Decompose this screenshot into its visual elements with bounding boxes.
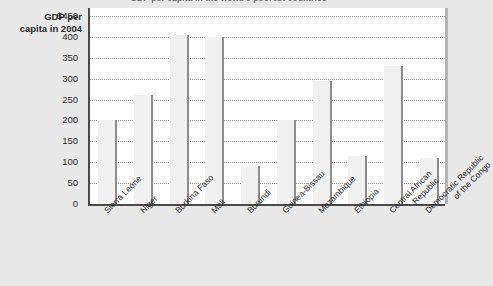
y-tick-label: 50: [8, 178, 78, 188]
y-tick-label: 0: [8, 199, 78, 209]
y-tick-label: 250: [8, 95, 78, 105]
x-axis-tick-labels: Sierra LeoneNigerBurkina FasoMaliBurundi…: [88, 208, 445, 286]
y-tick-label: 200: [8, 115, 78, 125]
bar: [170, 35, 189, 204]
bar: [98, 120, 117, 204]
plot-area: [88, 8, 445, 206]
y-tick-label: 150: [8, 136, 78, 146]
y-tick-label: 400: [8, 32, 78, 42]
chart-title: GDP per capita in the world's poorest co…: [0, 0, 457, 3]
bar: [277, 120, 296, 204]
y-tick-label: $450: [8, 11, 78, 21]
y-tick-label: 300: [8, 74, 78, 84]
bar-series: [90, 8, 445, 204]
y-tick-label: 100: [8, 157, 78, 167]
bar: [384, 66, 403, 204]
y-tick-label: 350: [8, 53, 78, 63]
bar: [134, 95, 153, 204]
